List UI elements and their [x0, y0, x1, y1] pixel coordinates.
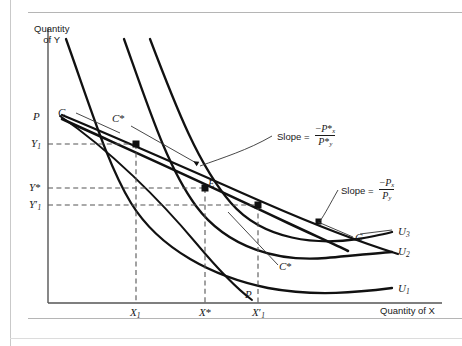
leader-slope-compensated: [200, 136, 272, 166]
y-label-Y1: Y1: [31, 138, 41, 150]
indifference-curves: [66, 39, 392, 293]
y-axis-title: Quantity of Y: [34, 24, 69, 46]
slope-numerator-uncompensated: −Px: [377, 178, 398, 189]
curve-U1: [66, 39, 392, 293]
label-C-right: C: [355, 232, 362, 243]
axis-lines: [48, 28, 442, 303]
guide-dashed-lines: [48, 144, 258, 303]
curve-U3: [150, 39, 392, 241]
point-X1prime: [255, 202, 262, 209]
y-label-Y1-prime: Y′1: [29, 199, 41, 211]
y-label-P: P: [33, 111, 40, 122]
label-C-star-bottom: C*: [279, 261, 292, 272]
slope-label-compensated: Slope =: [277, 131, 310, 142]
slope-label-uncompensated: Slope =: [341, 185, 374, 196]
figure-container: Quantity of Y Quantity of X P C Y1 Y* Y′…: [0, 0, 462, 346]
x-axis-title: Quantity of X: [380, 306, 435, 317]
curve-label-U1: U1: [398, 283, 410, 295]
x-label-X-star: X*: [199, 307, 211, 318]
leader-slope-uncompensated: [320, 190, 338, 221]
y-axis-title-line2: of Y: [34, 35, 69, 46]
leader-Cstar-bottom: [228, 212, 278, 265]
point-Y1-X1: [133, 141, 140, 148]
slope-numerator-compensated: −P*x: [313, 124, 339, 135]
slope-fraction-uncompensated: −Px Py: [377, 178, 398, 202]
slope-denominator-compensated: P*y: [315, 135, 335, 148]
slope-annotation-compensated: Slope = −P*x P*y: [277, 124, 338, 148]
y-label-Y-star: Y*: [29, 182, 41, 193]
slope-fraction-compensated: −P*x P*y: [313, 124, 339, 148]
x-axis-title-text: Quantity of X: [380, 305, 435, 316]
point-label-E: E: [208, 178, 215, 189]
curve-label-U3: U3: [398, 226, 410, 238]
label-C-star-top: C*: [112, 113, 125, 124]
x-label-X1-prime: X′1: [252, 307, 265, 319]
leader-C-right: [318, 222, 353, 237]
plot-points: [133, 141, 322, 225]
diagram-plot: [0, 0, 462, 346]
y-label-C: C: [58, 107, 65, 118]
x-label-X1: X1: [130, 307, 140, 319]
curve-label-U2: U2: [398, 246, 410, 258]
label-P-bottom: P: [245, 289, 252, 300]
slope-denominator-uncompensated: Py: [379, 189, 394, 202]
slope-annotation-uncompensated: Slope = −Px Py: [341, 178, 397, 202]
price-consumption-path-PP: [60, 116, 252, 300]
